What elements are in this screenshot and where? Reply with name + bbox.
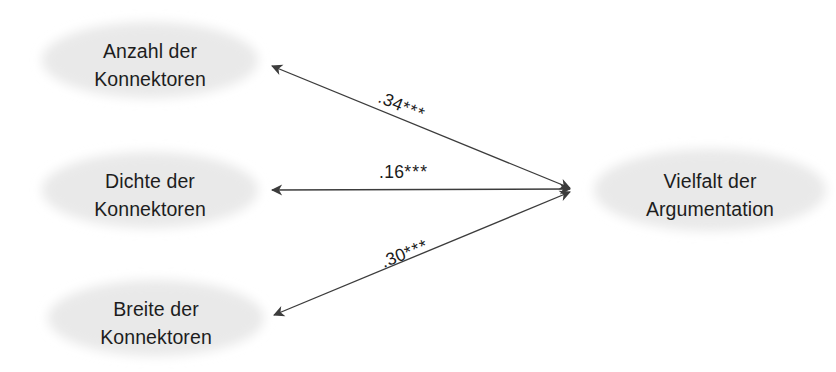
edge-significance: *** — [404, 162, 428, 182]
diagram-svg — [0, 0, 836, 372]
node-ellipse-breite-der-konnektoren[interactable] — [48, 280, 264, 356]
node-ellipse-vielfalt-der-argumentation[interactable] — [594, 149, 826, 231]
node-ellipse-dichte-der-konnektoren[interactable] — [42, 152, 258, 228]
diagram-canvas: Anzahl der Konnektoren Dichte der Konnek… — [0, 0, 836, 372]
edge-line-dichte[interactable] — [272, 189, 570, 190]
edge-label-dichte: .16*** — [379, 162, 428, 183]
edge-coefficient: .16 — [379, 162, 404, 182]
node-ellipse-anzahl-der-konnektoren[interactable] — [42, 22, 258, 98]
